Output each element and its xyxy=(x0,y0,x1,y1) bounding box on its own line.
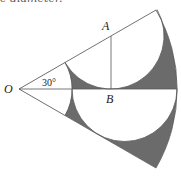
sector-diagram: O A B 30° xyxy=(0,0,181,176)
label-B: B xyxy=(106,92,114,106)
label-O: O xyxy=(4,82,13,96)
label-angle-30: 30° xyxy=(42,77,56,88)
label-A: A xyxy=(101,19,110,33)
